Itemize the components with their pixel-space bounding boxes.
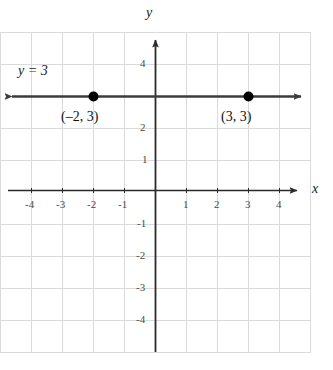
y-tick-label-4: 4 — [140, 58, 146, 69]
x-tick-label--1: -1 — [118, 199, 127, 210]
x-tick-label--2: -2 — [87, 199, 96, 210]
x-axis-label: x — [312, 182, 318, 196]
y-tick-label--3: -3 — [136, 282, 145, 293]
y-axis-label: y — [146, 6, 152, 20]
y-tick-label--1: -1 — [137, 218, 146, 229]
plotted-point-right — [244, 92, 254, 102]
coordinate-plane-canvas — [0, 0, 333, 370]
x-tick-label--4: -4 — [25, 199, 34, 210]
x-tick-label-1: 1 — [183, 199, 189, 210]
y-tick-label--2: -2 — [136, 250, 145, 261]
plotted-point-left — [89, 92, 99, 102]
graph-figure: y x y = 3 (–2, 3) (3, 3) -4 -3 -2 -1 1 2… — [0, 0, 333, 370]
x-tick-label-3: 3 — [245, 199, 251, 210]
y-tick-label-1: 1 — [142, 154, 148, 165]
x-tick-label-4: 4 — [276, 199, 282, 210]
y-tick-label-2: 2 — [140, 122, 146, 133]
equation-label: y = 3 — [18, 64, 48, 78]
x-tick-label--3: -3 — [56, 199, 65, 210]
point-label-right: (3, 3) — [221, 110, 251, 124]
point-label-left: (–2, 3) — [61, 110, 98, 124]
y-tick-label--4: -4 — [136, 314, 145, 325]
x-tick-label-2: 2 — [214, 199, 220, 210]
